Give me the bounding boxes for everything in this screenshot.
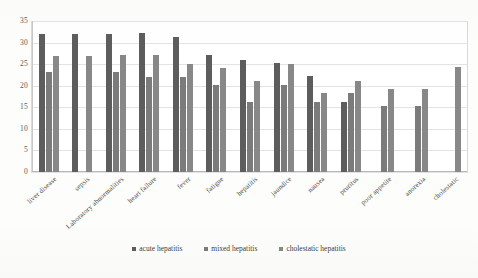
- y-axis-tick-label: 35: [4, 17, 28, 25]
- legend-label: mixed hepatitis: [211, 245, 257, 253]
- y-axis-tick-labels: 05101520253035: [0, 21, 28, 173]
- bar: [86, 56, 92, 172]
- bar: [220, 68, 226, 172]
- bar: [355, 81, 361, 172]
- bar-group: [307, 21, 327, 172]
- bar-chart: 05101520253035 liver diseasesepsisLabora…: [0, 0, 478, 278]
- legend-swatch-icon: [279, 247, 283, 251]
- x-axis-tick-label: jaundice: [269, 175, 293, 198]
- x-axis-tick-label: fatigue: [205, 175, 226, 195]
- bar-group: [274, 21, 294, 172]
- bar: [314, 102, 320, 172]
- y-axis-tick-label: 5: [4, 147, 28, 155]
- x-axis-tick-label: hepatitis: [235, 175, 259, 198]
- bar-group: [39, 21, 59, 172]
- legend-swatch-icon: [204, 247, 208, 251]
- bar-group: [139, 21, 159, 172]
- x-axis-tick-label: nausea: [306, 175, 326, 194]
- bar: [213, 85, 219, 172]
- x-axis-tick-label: anorexia: [403, 175, 427, 198]
- bar: [254, 81, 260, 172]
- x-axis-tick-label: sepsis: [73, 175, 91, 193]
- legend-label: acute hepatitis: [139, 245, 182, 253]
- y-axis-tick-label: 25: [4, 60, 28, 68]
- bar: [72, 34, 78, 172]
- bar: [106, 34, 112, 172]
- bar-group: [408, 21, 428, 172]
- bar: [139, 33, 145, 172]
- y-axis-tick-label: 10: [4, 125, 28, 133]
- bar-group: [374, 21, 394, 172]
- bar: [321, 93, 327, 172]
- bars-layer: [32, 21, 468, 172]
- bar: [288, 64, 294, 172]
- bar: [455, 67, 461, 172]
- bar: [281, 85, 287, 172]
- bar: [307, 76, 313, 172]
- bar: [180, 77, 186, 172]
- x-axis-tick-label: Laboratory abnormalities: [64, 175, 125, 231]
- bar-group: [173, 21, 193, 172]
- bar: [422, 89, 428, 172]
- bar: [348, 93, 354, 172]
- y-axis-tick-label: 30: [4, 39, 28, 47]
- bar: [415, 106, 421, 172]
- bar: [153, 55, 159, 172]
- bar-group: [106, 21, 126, 172]
- y-axis-tick-label: 15: [4, 104, 28, 112]
- legend-item[interactable]: cholestatic hepatitis: [279, 245, 345, 253]
- x-axis-tick-label: liver disease: [25, 175, 58, 206]
- bar-group: [441, 21, 461, 172]
- bar: [39, 34, 45, 172]
- x-axis-tick-label: heart failure: [127, 175, 159, 205]
- bar: [274, 63, 280, 172]
- legend-label: cholestatic hepatitis: [286, 245, 345, 253]
- x-axis-tick-label: pruritus: [338, 175, 360, 196]
- bar: [240, 60, 246, 172]
- y-axis-tick-label: 20: [4, 82, 28, 90]
- legend-swatch-icon: [132, 247, 136, 251]
- x-axis-tick-labels: liver diseasesepsisLaboratory abnormalit…: [0, 173, 478, 235]
- bar: [341, 102, 347, 172]
- legend-item[interactable]: mixed hepatitis: [204, 245, 257, 253]
- bar: [120, 55, 126, 172]
- x-axis-tick-label: cholestatic: [432, 175, 461, 202]
- bar-group: [341, 21, 361, 172]
- bar: [53, 56, 59, 172]
- bar: [46, 72, 52, 172]
- chart-legend: acute hepatitismixed hepatitischolestati…: [0, 245, 478, 253]
- bar-group: [72, 21, 92, 172]
- bar: [146, 77, 152, 172]
- bar: [187, 64, 193, 172]
- bar: [388, 89, 394, 172]
- bar: [247, 102, 253, 172]
- x-axis-tick-label: fever: [176, 175, 193, 191]
- bar: [381, 106, 387, 172]
- bar-group: [240, 21, 260, 172]
- bar: [206, 55, 212, 172]
- bar: [173, 37, 179, 172]
- legend-item[interactable]: acute hepatitis: [132, 245, 182, 253]
- bar-group: [206, 21, 226, 172]
- x-axis-tick-label: poor appetite: [359, 175, 393, 207]
- bar: [113, 72, 119, 172]
